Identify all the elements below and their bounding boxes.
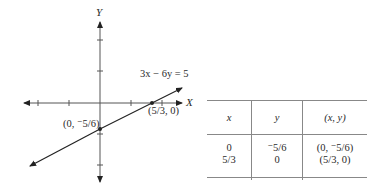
table-row: 0 ⁻5/6 (0, ⁻5/6) bbox=[207, 135, 367, 155]
header-x: x bbox=[207, 101, 252, 135]
y-axis-label: Y bbox=[96, 6, 102, 18]
cell-xy: (0, ⁻5/6) bbox=[303, 135, 368, 155]
coordinate-graph bbox=[0, 0, 200, 193]
table-bottom-rule bbox=[207, 177, 367, 178]
equation-label: 3x − 6y = 5 bbox=[140, 68, 189, 79]
header-xy: (x, y) bbox=[303, 101, 368, 135]
cell-x: 0 bbox=[207, 135, 252, 155]
table-of-values: x y (x, y) 0 ⁻5/6 (0, ⁻5/6) 5/3 0 (5/3, … bbox=[207, 101, 367, 180]
x-intercept-label: (5/3, 0) bbox=[148, 105, 179, 116]
cell-y: ⁻5/6 bbox=[252, 135, 303, 155]
x-axis-label: X bbox=[186, 96, 193, 108]
header-y: y bbox=[252, 101, 303, 135]
y-intercept-label: (0, ⁻5/6) bbox=[63, 117, 99, 129]
